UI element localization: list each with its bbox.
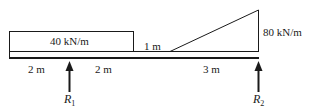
triangular-load-label: 80 kN/m (263, 26, 302, 38)
triangular-load (170, 10, 259, 52)
reaction-label-r2: R2 (253, 92, 264, 108)
dimension-label-2: 2 m (95, 63, 112, 75)
gap-dimension-label: 1 m (144, 40, 161, 52)
uniform-load-label: 40 kN/m (50, 35, 89, 47)
reaction-arrow-r2 (255, 61, 263, 92)
dimension-label-3: 3 m (203, 63, 220, 75)
dimension-label-1: 2 m (28, 63, 45, 75)
beam-diagram (0, 0, 313, 112)
reaction-arrow-r1 (66, 61, 74, 92)
reaction-label-r1: R1 (64, 92, 75, 108)
